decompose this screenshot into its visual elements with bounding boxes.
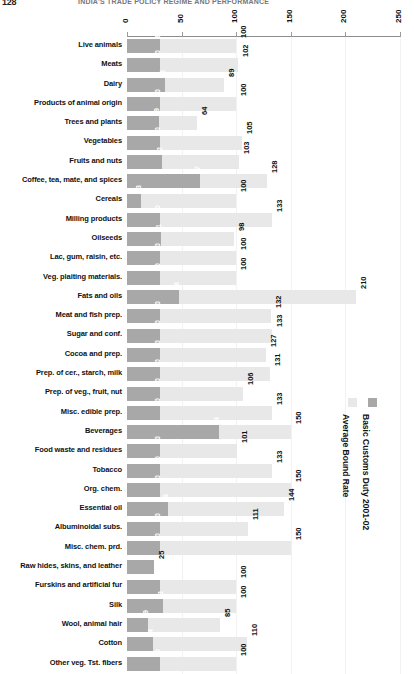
chart-row: Fats and oils21048 [0, 288, 414, 307]
gridline [345, 655, 346, 674]
bar-area: 13130 [127, 365, 414, 384]
value-label-customs-duty: 30 [154, 31, 161, 39]
category-label: Trees and plants [64, 117, 122, 126]
value-label-customs-duty: 67 [194, 166, 201, 174]
bar-basic-customs-duty[interactable] [127, 541, 160, 555]
gridline [291, 365, 292, 384]
gridline [291, 384, 292, 403]
value-label-bound-rate: 111 [251, 509, 260, 521]
bar-area: 10013 [127, 191, 414, 210]
category-label: Other veg. Tst. fibers [50, 658, 122, 667]
value-label-bound-rate: 133 [275, 450, 284, 463]
bar-area: 12730 [127, 346, 414, 365]
gridline [291, 37, 292, 56]
value-label-bound-rate: 100 [239, 238, 248, 251]
bar-basic-customs-duty[interactable] [127, 502, 168, 516]
bar-area: 10033 [127, 597, 414, 616]
bar-area: 10530 [127, 133, 414, 152]
bar-area: 6429 [127, 114, 414, 133]
bar-area: 10030 [127, 249, 414, 268]
value-label-bound-rate: 98 [237, 223, 246, 231]
value-label-customs-duty: 30 [154, 436, 161, 444]
gridline [291, 133, 292, 152]
category-label: Essential oil [80, 503, 122, 512]
legend-label-basic-customs-duty: Basic Customs Duty 2001-02 [361, 414, 371, 530]
bar-basic-customs-duty[interactable] [127, 657, 160, 671]
bar-basic-customs-duty[interactable] [127, 194, 141, 208]
bar-basic-customs-duty[interactable] [127, 483, 160, 497]
gridline [291, 442, 292, 461]
bar-basic-customs-duty[interactable] [127, 271, 160, 285]
legend-label-average-bound-rate: Average Bound Rate [341, 414, 351, 497]
value-label-bound-rate: 132 [274, 296, 283, 309]
gridline [345, 384, 346, 403]
gridline [400, 211, 401, 230]
category-label: Beverages [85, 426, 122, 435]
value-label-bound-rate: 133 [275, 199, 284, 212]
value-label-bound-rate: 110 [250, 624, 259, 636]
category-label: Silk [109, 600, 122, 609]
bar-basic-customs-duty[interactable] [127, 618, 148, 632]
gridline [236, 269, 237, 288]
bar-basic-customs-duty[interactable] [127, 425, 219, 439]
x-axis-tick-label: 250 [394, 10, 403, 23]
gridline [345, 191, 346, 210]
gridline [291, 655, 292, 674]
legend-swatch-basic-customs-duty [368, 398, 377, 407]
category-label: Meats [101, 59, 122, 68]
gridline [291, 230, 292, 249]
bar-area: 12867 [127, 172, 414, 191]
value-label-bound-rate: 105 [245, 122, 254, 135]
x-axis-tick-label: 0 [121, 19, 130, 23]
bar-area: 9831 [127, 230, 414, 249]
bar-basic-customs-duty[interactable] [127, 406, 160, 420]
gridline [291, 462, 292, 481]
category-label: Wool, animal hair [62, 619, 122, 628]
bar-basic-customs-duty[interactable] [127, 580, 160, 594]
gridline [291, 76, 292, 95]
value-label-customs-duty: 38 [162, 494, 169, 502]
gridline [291, 191, 292, 210]
value-label-customs-duty: 30 [154, 514, 161, 522]
category-label: Dairy [104, 79, 122, 88]
bar-basic-customs-duty[interactable] [127, 637, 153, 651]
gridline [291, 577, 292, 596]
value-label-bound-rate: 133 [275, 315, 284, 328]
chart-row: Prep. of cer., starch, milk13130 [0, 365, 414, 384]
value-label-customs-duty: 29 [153, 108, 160, 116]
value-label-bound-rate: 85 [223, 609, 232, 617]
category-label: Misc. edible prep. [61, 407, 122, 416]
gridline [236, 230, 237, 249]
category-label: Milling products [66, 214, 122, 223]
bar-average-bound-rate[interactable] [127, 194, 236, 208]
gridline [400, 95, 401, 114]
value-label-bound-rate: 100 [239, 566, 248, 579]
bar-basic-customs-duty[interactable] [127, 560, 154, 574]
bar-area: 21048 [127, 288, 414, 307]
value-label-bound-rate: 150 [294, 469, 303, 482]
chart-row: Milling products13330 [0, 211, 414, 230]
gridline [345, 76, 346, 95]
gridline [400, 191, 401, 210]
value-label-bound-rate: 106 [246, 373, 255, 386]
bar-area: 8935 [127, 76, 414, 95]
gridline [345, 346, 346, 365]
gridline [345, 230, 346, 249]
chart-row: Meats10230 [0, 56, 414, 75]
gridline [236, 37, 237, 56]
gridline [345, 307, 346, 326]
bar-basic-customs-duty[interactable] [127, 136, 160, 150]
category-label: Vegetables [84, 136, 122, 145]
gridline [345, 37, 346, 56]
bar-basic-customs-duty[interactable] [127, 155, 162, 169]
x-axis-tick-label: 100 [230, 10, 239, 23]
gridline [400, 597, 401, 616]
value-label-customs-duty: 19 [142, 610, 149, 618]
gridline [400, 346, 401, 365]
chart-row: Silk10033 [0, 597, 414, 616]
value-label-customs-duty: 30 [154, 243, 161, 251]
bar-area: 10230 [127, 56, 414, 75]
chart-row: Live animals10030 [0, 37, 414, 56]
bar-basic-customs-duty[interactable] [127, 58, 160, 72]
value-label-customs-duty: 30 [154, 263, 161, 271]
